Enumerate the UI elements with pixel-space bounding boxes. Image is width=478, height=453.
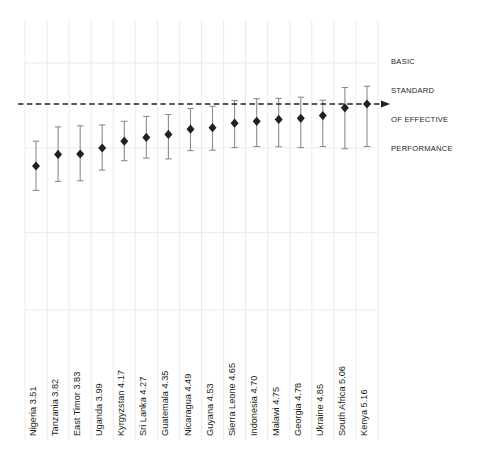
category-tick-label: Guyana 4.53 xyxy=(205,383,215,436)
category-tick-label: Tanzania 3.82 xyxy=(50,379,60,436)
category-tick-label: Georgia 4.78 xyxy=(293,383,303,436)
category-tick-label: East Timor 3.83 xyxy=(72,372,82,436)
category-tick-label: Sri Lanka 4.27 xyxy=(138,377,148,436)
reference-line-annotation: BASIC STANDARD OF EFFECTIVE PERFORMANCE xyxy=(391,38,453,172)
annotation-line-4: PERFORMANCE xyxy=(391,144,453,154)
category-tick-label: Uganda 3.99 xyxy=(94,383,104,436)
annotation-line-2: STANDARD xyxy=(391,86,453,96)
category-tick-label: Sierra Leone 4.65 xyxy=(227,363,237,436)
category-tick-label: Nigeria 3.51 xyxy=(28,386,38,436)
chart-root: Nigeria 3.51Tanzania 3.82East Timor 3.83… xyxy=(0,0,478,453)
category-tick-label: South Africa 5.06 xyxy=(337,366,347,436)
annotation-line-1: BASIC xyxy=(391,57,453,67)
category-tick-label: Nicaragua 4.49 xyxy=(183,374,193,436)
annotation-line-3: OF EFFECTIVE xyxy=(391,115,453,125)
category-tick-label: Indonesia 4.70 xyxy=(249,376,259,436)
category-tick-label: Guatemala 4.35 xyxy=(160,371,170,436)
category-tick-label: Kyrgyzstan 4.17 xyxy=(116,370,126,436)
category-tick-label: Ukraine 4.85 xyxy=(315,384,325,436)
category-tick-label: Malawi 4.75 xyxy=(271,387,281,436)
category-tick-label: Kenya 5.16 xyxy=(359,390,369,437)
